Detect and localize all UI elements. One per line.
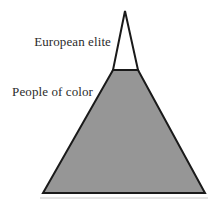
pyramid-figure: European elite People of color: [0, 0, 213, 203]
pyramid-diagram: [0, 0, 213, 203]
label-european-elite: European elite: [0, 35, 111, 48]
pyramid-segment-european-elite: [113, 11, 138, 70]
label-people-of-color: People of color: [0, 85, 93, 98]
